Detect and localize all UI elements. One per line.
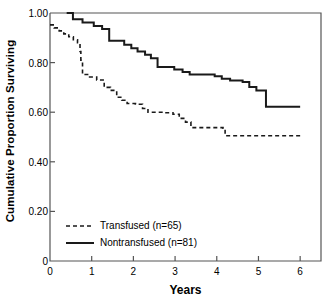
plot-frame [50, 13, 321, 261]
legend-label-nontransfused: Nontransfused (n=81) [100, 237, 197, 248]
x-axis-title: Years [50, 283, 321, 297]
survival-chart: Cumulative Proportion Surviving 00.200.4… [0, 0, 334, 306]
series-line-nontransfused [67, 13, 300, 107]
legend-label-transfused: Transfused (n=65) [100, 220, 182, 231]
axis-frame [50, 13, 321, 261]
x-tick-marks [92, 256, 300, 261]
series-line-transfused [50, 25, 300, 136]
y-tick-marks [50, 63, 55, 212]
plot-area [0, 0, 334, 306]
